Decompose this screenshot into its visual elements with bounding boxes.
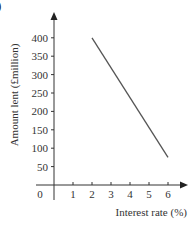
series-line [92, 38, 168, 158]
y-tick-label: 200 [32, 105, 49, 117]
x-tick-label: 2 [89, 188, 95, 200]
origin-label: 0 [37, 188, 43, 200]
x-tick-label: 6 [165, 188, 171, 200]
y-tick-label: 250 [32, 87, 49, 99]
x-tick-label: 3 [108, 188, 114, 200]
y-axis-title: Amount lent (£million) [8, 43, 21, 146]
data-series [92, 38, 168, 158]
x-axis-arrow-icon [180, 182, 188, 189]
y-tick-label: 350 [32, 50, 49, 62]
x-tick-label: 1 [70, 188, 76, 200]
x-tick-label: 5 [146, 188, 152, 200]
y-tick-label: 400 [32, 32, 49, 44]
line-chart: 50100150200250300350400 123456 0 Interes… [0, 0, 196, 225]
y-tick-label: 50 [37, 161, 49, 173]
y-tick-label: 150 [32, 124, 49, 136]
y-tick-label: 300 [32, 69, 49, 81]
y-axis-ticks: 50100150200250300350400 [32, 32, 55, 173]
y-axis-arrow-icon [51, 12, 58, 20]
x-tick-label: 4 [127, 188, 133, 200]
x-axis-title: Interest rate (%) [116, 206, 188, 219]
y-tick-label: 100 [32, 142, 49, 154]
